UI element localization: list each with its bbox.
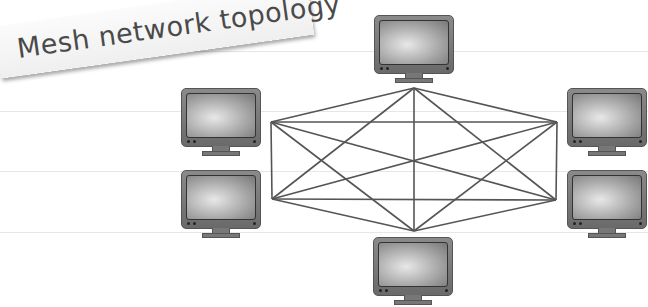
power-dot: [639, 140, 642, 143]
computer-icon-left-bottom: [181, 170, 261, 238]
monitor-base: [588, 233, 626, 238]
computer-icon-left-top: [181, 88, 261, 156]
power-dot: [445, 289, 448, 292]
led-dot: [385, 289, 388, 292]
monitor-screen: [186, 93, 256, 138]
mesh-connections: [0, 0, 648, 307]
power-dot: [253, 222, 256, 225]
connection-line: [556, 122, 557, 200]
led-dot: [386, 67, 389, 70]
monitor-screen: [378, 242, 448, 287]
led-dot: [573, 222, 576, 225]
led-dot: [579, 140, 582, 143]
led-dot: [193, 140, 196, 143]
computer-icon-right-bottom: [567, 170, 647, 238]
monitor-body: [567, 170, 647, 229]
power-dot: [253, 140, 256, 143]
led-dot: [579, 222, 582, 225]
led-dot: [187, 222, 190, 225]
computer-icon-bottom: [373, 237, 453, 305]
led-dot: [380, 67, 383, 70]
monitor-base: [588, 151, 626, 156]
monitor-screen: [572, 93, 642, 138]
power-dot: [639, 222, 642, 225]
monitor-base: [395, 78, 433, 83]
monitor-base: [394, 300, 432, 305]
monitor-body: [374, 15, 454, 74]
led-dot: [193, 222, 196, 225]
monitor-body: [567, 88, 647, 147]
monitor-base: [202, 151, 240, 156]
power-dot: [446, 67, 449, 70]
led-dot: [573, 140, 576, 143]
monitor-body: [181, 170, 261, 229]
monitor-screen: [572, 175, 642, 220]
monitor-screen: [186, 175, 256, 220]
computer-icon-top: [374, 15, 454, 83]
led-dot: [187, 140, 190, 143]
monitor-body: [373, 237, 453, 296]
monitor-screen: [379, 20, 449, 65]
monitor-body: [181, 88, 261, 147]
connection-line: [272, 199, 556, 200]
computer-icon-right-top: [567, 88, 647, 156]
monitor-base: [202, 233, 240, 238]
led-dot: [379, 289, 382, 292]
connection-line: [271, 122, 272, 199]
